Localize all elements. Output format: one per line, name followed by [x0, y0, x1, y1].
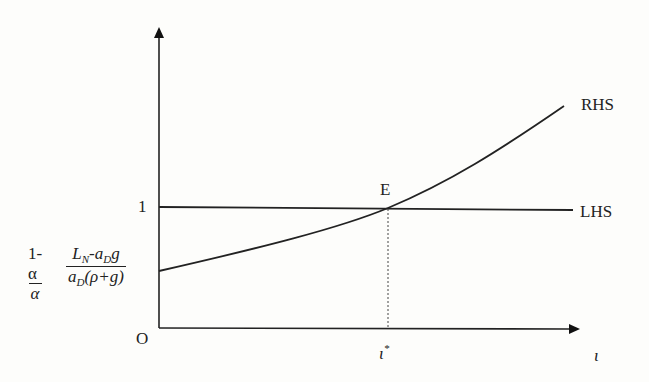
x-axis-label: ι — [594, 347, 599, 364]
intercept-fraction-2: LN-aDg aD(ρ+g) — [66, 244, 126, 288]
lhs-line — [159, 207, 573, 210]
equilibrium-x-label: ι* — [379, 343, 389, 362]
rhs-label: RHS — [581, 96, 614, 113]
diagram-canvas — [0, 0, 649, 382]
equilibrium-label: E — [380, 181, 390, 198]
lhs-label: LHS — [580, 203, 612, 220]
y-axis-arrow-icon — [154, 27, 164, 38]
y-tick-one: 1 — [138, 198, 147, 215]
rhs-curve — [159, 106, 564, 271]
intercept-fraction-1: 1-α α — [26, 244, 44, 304]
x-axis — [159, 328, 570, 329]
origin-label: O — [136, 330, 148, 347]
x-axis-arrow-icon — [569, 324, 580, 334]
